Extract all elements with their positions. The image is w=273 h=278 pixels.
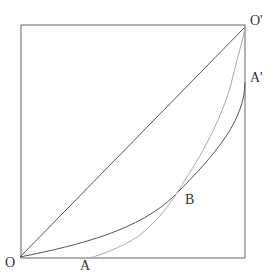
diagonal-line [20, 27, 245, 257]
label-point-a-prime: A' [250, 71, 263, 85]
label-point-b: B [185, 193, 194, 207]
diagram-canvas [0, 0, 273, 278]
label-point-a: A [80, 259, 90, 273]
dark-curve-o-to-a-prime [20, 82, 245, 257]
label-opposite-origin: O' [250, 14, 263, 28]
diagram: O O' A A' B [0, 0, 273, 278]
label-origin: O [5, 256, 15, 270]
